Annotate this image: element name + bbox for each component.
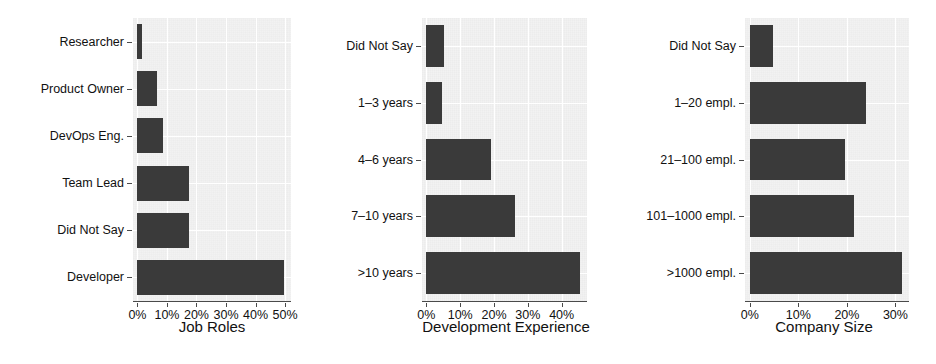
gridline-vertical <box>167 18 168 301</box>
bar <box>426 139 491 181</box>
x-axis-title-development-experience: Development Experience <box>422 318 590 335</box>
x-axis-tick <box>285 303 286 307</box>
chart-panel-development-experience: 0%10%20%30%40% Did Not Say1–3 years4–6 y… <box>312 0 624 364</box>
y-axis-category-label: Did Not Say <box>346 40 413 53</box>
y-axis-tick <box>416 273 421 274</box>
x-axis-tick <box>196 303 197 307</box>
x-axis-tick <box>167 303 168 307</box>
bar <box>750 195 854 237</box>
bar <box>137 260 283 295</box>
plot-area-development-experience <box>422 18 587 301</box>
y-axis-category-label: Product Owner <box>41 82 124 95</box>
y-axis-category-label: 21–100 empl. <box>660 153 736 166</box>
chart-panel-company-size: 0%10%20%30% Did Not Say1–20 empl.21–100 … <box>624 0 936 364</box>
y-axis-tick <box>416 216 421 217</box>
x-axis-tick-label: 0% <box>741 309 759 322</box>
y-axis-tick <box>127 277 132 278</box>
y-axis-category-label: 1–3 years <box>358 96 413 109</box>
y-axis-tick <box>416 46 421 47</box>
x-axis-tick-label: 30% <box>883 309 908 322</box>
y-axis-category-label: 101–1000 empl. <box>646 210 736 223</box>
x-axis-tick <box>895 303 896 307</box>
y-axis-tick <box>739 46 744 47</box>
chart-panel-job-roles: 0%10%20%30%40%50% ResearcherProduct Owne… <box>0 0 312 364</box>
x-axis-tick <box>137 303 138 307</box>
y-axis-category-label: Did Not Say <box>57 224 124 237</box>
x-axis-tick-label: 10% <box>154 309 179 322</box>
gridline-horizontal <box>422 46 587 47</box>
x-axis-tick <box>494 303 495 307</box>
plot-area-job-roles <box>133 18 291 301</box>
y-axis-tick <box>127 136 132 137</box>
y-axis-category-label: Researcher <box>59 35 124 48</box>
x-axis-tick <box>528 303 529 307</box>
gridline-vertical <box>256 18 257 301</box>
x-axis-tick <box>426 303 427 307</box>
gridline-vertical <box>285 18 286 301</box>
y-axis-tick <box>739 103 744 104</box>
y-axis-category-label: 1–20 empl. <box>674 96 736 109</box>
bar <box>750 252 902 294</box>
gridline-vertical <box>196 18 197 301</box>
bar <box>137 24 141 59</box>
y-axis-category-label: Did Not Say <box>669 40 736 53</box>
bar <box>750 25 773 67</box>
x-axis-line <box>133 301 291 302</box>
y-axis-category-label: 7–10 years <box>351 210 413 223</box>
y-axis-tick <box>739 160 744 161</box>
x-axis-title-company-size: Company Size <box>775 318 873 335</box>
y-axis-tick <box>416 160 421 161</box>
y-axis-category-label: Team Lead <box>62 177 124 190</box>
y-axis-tick <box>739 216 744 217</box>
y-axis-tick <box>127 42 132 43</box>
x-axis-tick <box>562 303 563 307</box>
plot-area-company-size <box>745 18 909 301</box>
bar <box>137 71 156 106</box>
x-axis-title-job-roles: Job Roles <box>179 318 246 335</box>
bar <box>750 139 845 181</box>
bar <box>426 82 442 124</box>
survey-demographics-figure: 0%10%20%30%40%50% ResearcherProduct Owne… <box>0 0 936 364</box>
x-axis-tick-label: 0% <box>128 309 146 322</box>
gridline-vertical <box>226 18 227 301</box>
y-axis-category-label: 4–6 years <box>358 153 413 166</box>
y-axis-tick <box>127 230 132 231</box>
bar <box>426 252 580 294</box>
x-axis-tick <box>750 303 751 307</box>
y-axis-tick <box>416 103 421 104</box>
x-axis-tick <box>256 303 257 307</box>
bar <box>137 213 188 248</box>
bar <box>137 118 163 153</box>
y-axis-tick <box>127 183 132 184</box>
x-axis-tick-label: 40% <box>243 309 268 322</box>
gridline-horizontal <box>422 103 587 104</box>
x-axis-line <box>745 301 909 302</box>
y-axis-tick <box>739 273 744 274</box>
gridline-horizontal <box>133 89 291 90</box>
y-axis-tick <box>127 89 132 90</box>
x-axis-tick <box>226 303 227 307</box>
x-axis-tick <box>798 303 799 307</box>
x-axis-tick <box>460 303 461 307</box>
y-axis-category-label: DevOps Eng. <box>50 129 124 142</box>
gridline-vertical <box>137 18 138 301</box>
x-axis-tick <box>847 303 848 307</box>
gridline-horizontal <box>133 42 291 43</box>
bar <box>426 25 444 67</box>
x-axis-line <box>422 301 587 302</box>
y-axis-category-label: >10 years <box>358 266 413 279</box>
bar <box>426 195 515 237</box>
bar <box>750 82 866 124</box>
y-axis-category-label: >1000 empl. <box>667 266 736 279</box>
x-axis-tick-label: 50% <box>273 309 298 322</box>
bar <box>137 166 189 201</box>
y-axis-category-label: Developer <box>67 271 124 284</box>
